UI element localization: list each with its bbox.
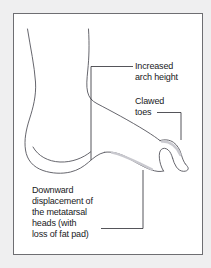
leader-line-arch (91, 67, 133, 161)
clawed-toe-plantar (159, 148, 172, 171)
clawed-toe-tip (173, 158, 189, 171)
label-increased-arch-height: Increased arch height (135, 61, 201, 83)
label-clawed-toes: Clawed toes (135, 96, 185, 118)
figure-container: Increased arch height Clawed toes Downwa… (0, 0, 211, 268)
heel-pad-crease (33, 147, 91, 162)
plantar-shading (112, 153, 152, 170)
label-downward-displacement-metatarsal-heads: Downward displacement of the metatarsal … (32, 185, 124, 240)
foot-shading (112, 142, 180, 170)
leg-anterior-contour (87, 29, 160, 141)
